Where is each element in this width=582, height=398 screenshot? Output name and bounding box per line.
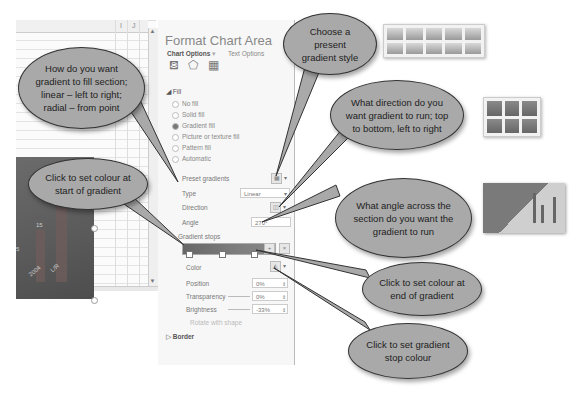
callout-direction: What direction do you want gradient to r… xyxy=(330,80,464,150)
callout-angle: What angle across the section do you wan… xyxy=(335,178,472,258)
callout-end-color: Click to set colour at end of gradient xyxy=(362,262,482,316)
callout-start-color: Click to set colour at start of gradient xyxy=(28,158,148,210)
callout-preset-gradients: Choose a present gradient style xyxy=(283,13,377,75)
callout-gradient-type: How do you want gradient to fill section… xyxy=(18,47,145,129)
callout-stop-color: Click to set gradient stop colour xyxy=(348,323,468,379)
